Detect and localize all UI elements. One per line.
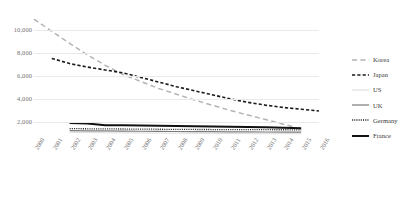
legend-label: Korea [373, 56, 389, 63]
series-line-korea [34, 19, 301, 129]
legend-swatch-germany-icon [352, 117, 369, 123]
gridline [34, 76, 319, 77]
series-layer [34, 18, 319, 145]
legend-item-japan[interactable]: Japan [352, 67, 410, 82]
legend-label: Germany [373, 117, 398, 124]
y-axis-tick-label: 10,000 [2, 26, 32, 33]
line-chart: 10,0008,0006,0004,0002,000 2000200120022… [0, 0, 410, 197]
y-axis: 10,0008,0006,0004,0002,000 [0, 18, 32, 145]
gridline [34, 122, 319, 123]
y-axis-tick-label: 4,000 [2, 95, 32, 102]
gridline [34, 99, 319, 100]
legend-label: US [373, 86, 381, 93]
series-line-uk [70, 131, 302, 133]
legend-swatch-korea-icon [352, 57, 369, 63]
series-line-france [70, 123, 302, 128]
legend-swatch-uk-icon [352, 102, 369, 108]
legend-item-uk[interactable]: UK [352, 98, 410, 113]
plot-area [34, 18, 319, 145]
x-axis: 2000200120022003200420052006200720082009… [34, 147, 319, 197]
legend-item-korea[interactable]: Korea [352, 52, 410, 67]
legend-item-germany[interactable]: Germany [352, 113, 410, 128]
chart-legend: KoreaJapanUSUKGermanyFrance [352, 52, 410, 143]
legend-swatch-japan-icon [352, 72, 369, 78]
legend-label: France [373, 132, 391, 139]
gridline [34, 30, 319, 31]
x-axis-tick-label: 2016 [318, 137, 330, 151]
legend-item-us[interactable]: US [352, 82, 410, 97]
y-axis-tick-label: 8,000 [2, 49, 32, 56]
gridline [34, 53, 319, 54]
legend-label: Japan [373, 71, 388, 78]
series-line-japan [52, 58, 319, 111]
legend-label: UK [373, 102, 383, 109]
legend-swatch-us-icon [352, 87, 369, 93]
y-axis-tick-label: 6,000 [2, 72, 32, 79]
y-axis-tick-label: 2,000 [2, 118, 32, 125]
series-line-germany [70, 129, 302, 130]
legend-item-france[interactable]: France [352, 128, 410, 143]
legend-swatch-france-icon [352, 133, 369, 139]
